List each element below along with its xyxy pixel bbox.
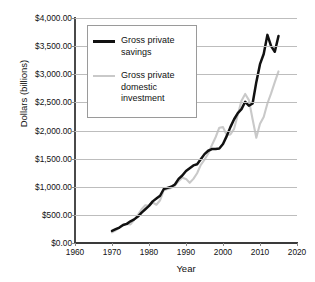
- line-chart: Dollars (billions) $0.00$500.00$1,000.00…: [0, 0, 315, 282]
- y-tick-mark: [71, 131, 75, 132]
- legend-swatch-icon-savings: [93, 40, 115, 43]
- legend: Gross private savings Gross private dome…: [87, 25, 197, 118]
- y-axis-tick-labels: $0.00$500.00$1,000.00$1,500.00$2,000.00$…: [0, 0, 72, 282]
- gridline: [75, 131, 297, 132]
- y-tick-label: $1,500.00: [4, 155, 72, 163]
- y-tick-label: $0.00: [4, 239, 72, 247]
- x-tick-mark: [186, 243, 187, 246]
- y-tick-label: $3,000.00: [4, 70, 72, 78]
- y-tick-label: $4,000.00: [4, 14, 72, 22]
- y-tick-mark: [71, 102, 75, 103]
- y-tick-mark: [71, 46, 75, 47]
- x-tick-mark: [112, 243, 113, 246]
- x-tick-mark: [223, 243, 224, 246]
- y-tick-label: $2,000.00: [4, 127, 72, 135]
- y-tick-mark: [71, 215, 75, 216]
- gridline: [75, 187, 297, 188]
- y-tick-mark: [71, 159, 75, 160]
- x-tick-mark: [149, 243, 150, 246]
- y-tick-label: $3,500.00: [4, 42, 72, 50]
- gridline: [75, 159, 297, 160]
- x-tick-mark: [260, 243, 261, 246]
- y-tick-mark: [71, 187, 75, 188]
- y-tick-label: $2,500.00: [4, 98, 72, 106]
- gridline: [75, 215, 297, 216]
- x-tick-mark: [297, 243, 298, 246]
- x-tick-mark: [75, 243, 76, 246]
- x-tick-label: 2020: [274, 247, 315, 257]
- x-axis-title: Year: [75, 263, 297, 274]
- legend-label-savings: Gross private savings: [121, 35, 193, 58]
- y-tick-label: $500.00: [4, 211, 72, 219]
- y-tick-mark: [71, 74, 75, 75]
- gridline: [75, 18, 297, 19]
- legend-label-investment: Gross private domestic investment: [121, 70, 193, 105]
- y-tick-label: $1,000.00: [4, 183, 72, 191]
- y-tick-mark: [71, 18, 75, 19]
- legend-swatch-icon-investment: [93, 75, 115, 77]
- legend-entry-savings: Gross private savings: [93, 35, 193, 58]
- legend-entry-investment: Gross private domestic investment: [93, 70, 193, 105]
